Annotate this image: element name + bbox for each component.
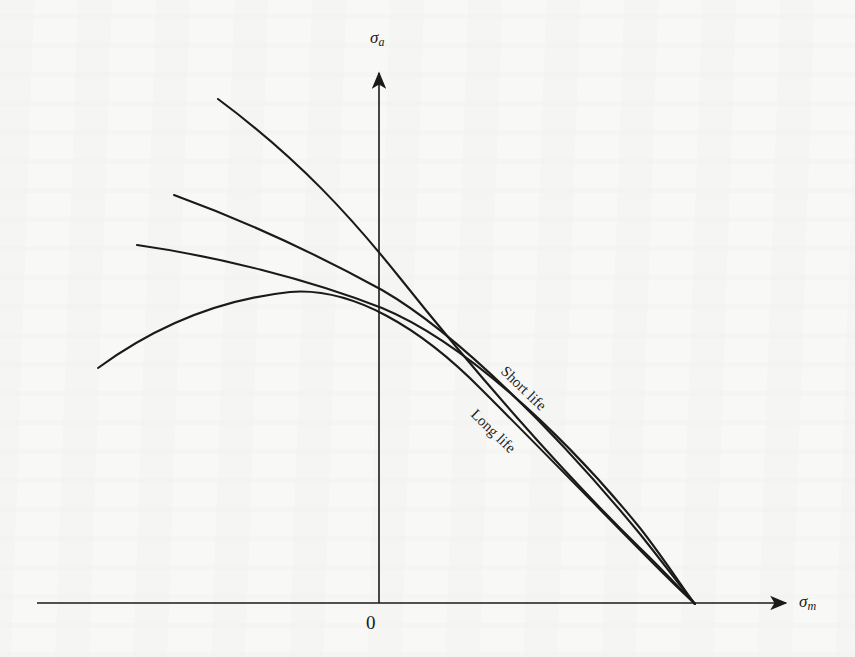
- y-axis-subscript: a: [378, 35, 384, 49]
- plot-canvas: [0, 0, 855, 657]
- x-axis-label: σm: [799, 592, 816, 614]
- y-axis-label: σa: [370, 28, 384, 50]
- curve-long-life: [98, 292, 695, 604]
- x-axis-subscript: m: [807, 599, 816, 613]
- figure-container: σa σm 0 Short life Long life: [0, 0, 855, 657]
- constant-life-curves: [98, 99, 695, 604]
- curve-second: [174, 195, 695, 604]
- origin-label: 0: [366, 612, 376, 634]
